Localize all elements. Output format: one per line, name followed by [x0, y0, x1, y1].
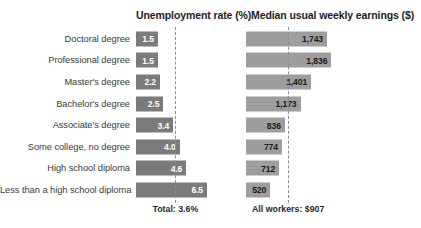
bar-unemployment: 2.2: [136, 74, 160, 89]
bar-value-label: 774: [264, 142, 282, 152]
bar-unemployment: 2.5: [136, 96, 163, 111]
bar-value-label: 1,401: [286, 77, 311, 87]
bar-earnings: 774: [246, 139, 282, 154]
bar-value-label: 6.5: [191, 185, 207, 195]
bar-earnings: 1,401: [246, 74, 311, 89]
bar-value-label: 836: [267, 120, 285, 130]
bar-unemployment: 1.5: [136, 53, 158, 68]
bar-earnings: 712: [246, 161, 279, 176]
reference-label-unemployment: Total: 3.6%: [152, 204, 198, 214]
chart-row: Professional degree1.51,836: [0, 50, 421, 72]
reference-line-earnings: [288, 27, 289, 203]
education-pay-chart: Unemployment rate (%) Median usual weekl…: [0, 0, 421, 228]
bar-earnings: 1,743: [246, 31, 327, 46]
reference-label-earnings: All workers: $907: [252, 204, 324, 214]
chart-row: Some college, no degree4.0774: [0, 136, 421, 158]
bar-unemployment: 3.4: [136, 118, 173, 133]
bar-value-label: 712: [261, 163, 279, 173]
bar-earnings: 520: [246, 182, 270, 197]
bar-unemployment: 6.5: [136, 182, 207, 197]
bar-value-label: 2.5: [148, 99, 164, 109]
chart-row: Doctoral degree1.51,743: [0, 28, 421, 50]
bar-value-label: 520: [252, 185, 270, 195]
bar-value-label: 4.0: [164, 142, 180, 152]
category-label: Doctoral degree: [0, 34, 130, 44]
bar-unemployment: 4.0: [136, 139, 180, 154]
bar-value-label: 3.4: [158, 120, 174, 130]
reference-line-unemployment: [175, 27, 176, 203]
bar-unemployment: 1.5: [136, 31, 158, 46]
category-label: Associate's degree: [0, 120, 130, 130]
panel-header-unemployment: Unemployment rate (%): [136, 9, 251, 21]
bar-value-label: 1,743: [302, 34, 327, 44]
chart-row: Less than a high school diploma6.5520: [0, 179, 421, 201]
category-label: Some college, no degree: [0, 142, 130, 152]
category-label: High school diploma: [0, 163, 130, 173]
chart-row: High school diploma4.6712: [0, 158, 421, 180]
bar-earnings: 1,173: [246, 96, 301, 111]
category-label: Less than a high school diploma: [0, 185, 130, 195]
bar-value-label: 2.2: [144, 77, 160, 87]
category-label: Bachelor's degree: [0, 99, 130, 109]
bar-value-label: 1.5: [142, 34, 158, 44]
bar-value-label: 4.6: [171, 163, 187, 173]
bar-unemployment: 4.6: [136, 161, 186, 176]
chart-row: Master's degree2.21,401: [0, 71, 421, 93]
chart-row: Associate's degree3.4836: [0, 114, 421, 136]
category-label: Master's degree: [0, 77, 130, 87]
panel-header-earnings: Median usual weekly earnings ($): [251, 9, 414, 21]
chart-row: Bachelor's degree2.51,173: [0, 93, 421, 115]
category-label: Professional degree: [0, 55, 130, 65]
bar-value-label: 1.5: [142, 55, 158, 65]
bar-value-label: 1,836: [306, 55, 331, 65]
bar-earnings: 836: [246, 118, 285, 133]
